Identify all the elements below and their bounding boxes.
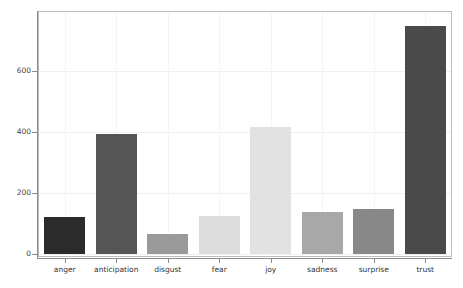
x-tick-label-joy: joy (265, 266, 276, 274)
x-tick-label-fear: fear (212, 266, 227, 274)
x-tick-mark (322, 259, 323, 263)
y-tick-mark (32, 254, 37, 255)
y-tick: 400 (0, 128, 31, 129)
bar-anger (44, 217, 85, 254)
x-tick-label-sadness: sadness (307, 266, 337, 274)
y-tick: 600 (0, 67, 31, 68)
y-tick-mark (32, 132, 37, 133)
bar-surprise (353, 209, 394, 254)
y-tick-label: 0 (1, 250, 31, 258)
bar-anticipation (96, 134, 137, 254)
bars-layer (39, 12, 451, 256)
x-tick-label-surprise: surprise (359, 266, 389, 274)
bar-trust (405, 26, 446, 254)
x-tick-mark (271, 259, 272, 263)
bar-joy (250, 127, 291, 254)
x-tick-label-trust: trust (416, 266, 434, 274)
x-tick-mark (219, 259, 220, 263)
x-tick-label-disgust: disgust (154, 266, 181, 274)
x-tick-label-anger: anger (54, 266, 76, 274)
bar-fear (199, 216, 240, 254)
y-tick-label: 200 (1, 189, 31, 197)
y-tick: 200 (0, 189, 31, 190)
y-tick: 0 (0, 250, 31, 251)
x-tick-mark (168, 259, 169, 263)
x-tick-mark (374, 259, 375, 263)
y-tick-mark (32, 193, 37, 194)
y-tick-mark (32, 71, 37, 72)
y-tick-label: 600 (1, 67, 31, 75)
x-tick-mark (65, 259, 66, 263)
bar-sadness (302, 212, 343, 254)
bar-disgust (147, 234, 188, 254)
bar-chart: 0200400600 angeranticipationdisgustfearj… (0, 0, 463, 288)
y-axis-line (37, 11, 38, 258)
y-tick-label: 400 (1, 128, 31, 136)
x-tick-mark (116, 259, 117, 263)
x-tick-label-anticipation: anticipation (94, 266, 138, 274)
x-axis-line (37, 258, 452, 259)
x-tick-mark (425, 259, 426, 263)
